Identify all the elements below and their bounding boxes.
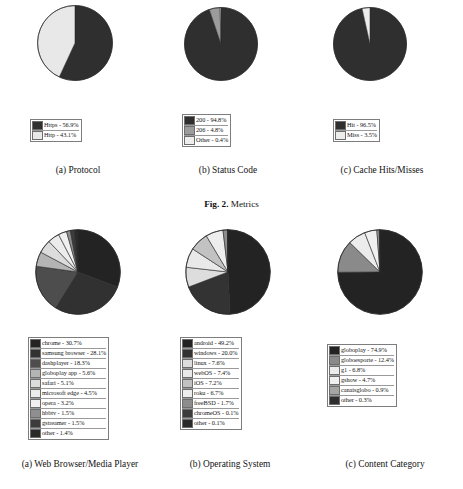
legend-label: linux - 7.6% — [194, 360, 225, 366]
subcaption-status-code: (b) Status Code — [168, 165, 288, 175]
legend-item: opera - 3.2% — [30, 399, 106, 408]
legend-swatch — [184, 116, 195, 125]
legend-label: dashplayer - 18.3% — [42, 360, 90, 366]
legend-item: windows - 20.0% — [182, 349, 239, 358]
pie-chart-status-code — [183, 6, 259, 82]
legend-box-content-category: globoplay - 74.9%globoesporte - 12.4%g1 … — [327, 344, 397, 407]
legend-swatch — [335, 131, 346, 140]
legend-label: hbbtv - 1.5% — [42, 410, 74, 416]
legend-swatch — [182, 409, 193, 418]
legend-swatch — [30, 359, 41, 368]
legend-item: g1 - 6.8% — [329, 366, 394, 375]
legend-swatch — [182, 339, 193, 348]
legend-label: Hit - 96.5% — [347, 122, 376, 128]
legend-item: chrome - 30.7% — [30, 339, 106, 348]
legend-item: 206 - 4.8% — [184, 126, 228, 135]
legend-item: globoplay app - 5.6% — [30, 369, 106, 378]
legend-item: gshow - 4.7% — [329, 376, 394, 385]
legend-item: canaisglobo - 0.9% — [329, 386, 394, 395]
legend-label: other - 0.3% — [341, 397, 372, 403]
subcaption-operating-system: (b) Operating System — [160, 459, 300, 469]
legend-swatch — [30, 399, 41, 408]
legend-swatch — [182, 389, 193, 398]
legend-swatch — [32, 131, 43, 140]
legend-item: Http - 43.1% — [32, 131, 79, 140]
legend-label: other - 0.1% — [194, 420, 225, 426]
legend-label: g1 - 6.8% — [341, 367, 365, 373]
legend-item: webOS - 7.4% — [182, 369, 239, 378]
legend-item: safari - 5.1% — [30, 379, 106, 388]
legend-web-browser: chrome - 30.7%samsung browser - 28.1%das… — [28, 337, 109, 442]
legend-label: canaisglobo - 0.9% — [341, 387, 389, 393]
legend-swatch — [182, 359, 193, 368]
legend-item: other - 0.3% — [329, 396, 394, 405]
legend-item: android - 49.2% — [182, 339, 239, 348]
legend-swatch — [30, 389, 41, 398]
legend-label: microsoft edge - 4.5% — [42, 390, 97, 396]
legend-label: gstreamer - 1.5% — [42, 420, 84, 426]
legend-swatch — [32, 121, 43, 130]
legend-label: opera - 3.2% — [42, 400, 74, 406]
legend-swatch — [329, 346, 340, 355]
legend-item: globoesporte - 12.4% — [329, 356, 394, 365]
legend-swatch — [329, 386, 340, 395]
pie-operating-system — [184, 228, 272, 316]
pie-cache — [332, 6, 408, 82]
legend-label: globoesporte - 12.4% — [341, 357, 394, 363]
legend-label: Miss - 3.5% — [347, 132, 377, 138]
figure-page: Https - 56.9%Http - 43.1% 200 - 94.8%206… — [0, 0, 463, 489]
legend-label: Other - 0.4% — [196, 137, 228, 143]
legend-label: freeBSD - 1.7% — [194, 400, 234, 406]
legend-protocol: Https - 56.9%Http - 43.1% — [30, 119, 82, 144]
legend-label: globoplay app - 5.6% — [42, 370, 95, 376]
legend-label: chromeOS - 0.1% — [194, 410, 239, 416]
legend-label: chrome - 30.7% — [42, 340, 82, 346]
legend-label: other - 1.4% — [42, 430, 73, 436]
legend-item: chromeOS - 0.1% — [182, 409, 239, 418]
legend-item: Https - 56.9% — [32, 121, 79, 130]
legend-content-category: globoplay - 74.9%globoesporte - 12.4%g1 … — [327, 344, 397, 409]
figure-caption: Fig. 2. Metrics — [0, 199, 463, 209]
figure-row-top-pies — [0, 4, 463, 112]
subcaption-web-browser: (a) Web Browser/Media Player — [0, 459, 160, 469]
legend-item: freeBSD - 1.7% — [182, 399, 239, 408]
subcaption-content-category: (c) Content Category — [310, 459, 460, 469]
pie-chart-web-browser-media-player — [34, 228, 122, 316]
legend-label: Https - 56.9% — [44, 122, 79, 128]
legend-cache: Hit - 96.5%Miss - 3.5% — [333, 119, 380, 144]
legend-swatch — [329, 366, 340, 375]
legend-swatch — [182, 349, 193, 358]
legend-swatch — [30, 379, 41, 388]
legend-label: 206 - 4.8% — [196, 127, 223, 133]
pie-content-category — [336, 228, 424, 316]
legend-item: microsoft edge - 4.5% — [30, 389, 106, 398]
legend-swatch — [329, 376, 340, 385]
legend-box-status-code: 200 - 94.8%206 - 4.8%Other - 0.4% — [182, 114, 231, 147]
figure-caption-number: Fig. 2. — [204, 199, 228, 209]
legend-label: samsung browser - 28.1% — [42, 350, 106, 356]
legend-swatch — [30, 339, 41, 348]
legend-item: Miss - 3.5% — [335, 131, 377, 140]
legend-label: 200 - 94.8% — [196, 117, 226, 123]
legend-label: roku - 6.7% — [194, 390, 223, 396]
legend-swatch — [30, 429, 41, 438]
legend-swatch — [182, 369, 193, 378]
legend-item: linux - 7.6% — [182, 359, 239, 368]
pie-protocol — [36, 4, 114, 82]
legend-swatch — [329, 356, 340, 365]
pie-chart-content-category — [336, 228, 424, 316]
subcaption-protocol: (a) Protocol — [18, 165, 138, 175]
legend-label: windows - 20.0% — [194, 350, 238, 356]
pie-chart-cache-hits-misses — [332, 6, 408, 82]
legend-box-cache-hits-misses: Hit - 96.5%Miss - 3.5% — [333, 119, 380, 142]
legend-swatch — [184, 126, 195, 135]
legend-label: gshow - 4.7% — [341, 377, 375, 383]
legend-swatch — [182, 379, 193, 388]
pie-slice — [228, 230, 270, 314]
pie-status-code — [183, 6, 259, 82]
legend-box-protocol: Https - 56.9%Http - 43.1% — [30, 119, 82, 142]
subcaption-cache: (c) Cache Hits/Misses — [312, 165, 452, 175]
legend-item: Other - 0.4% — [184, 136, 228, 145]
legend-item: dashplayer - 18.3% — [30, 359, 106, 368]
legend-label: android - 49.2% — [194, 340, 234, 346]
